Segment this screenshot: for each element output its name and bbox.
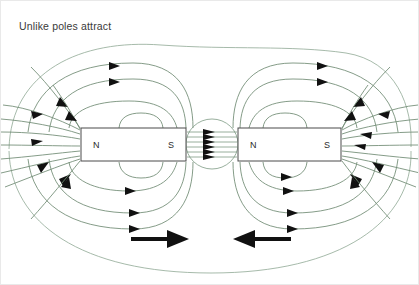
- right-magnet-south-label: S: [324, 140, 330, 150]
- gap-field-lines: [186, 119, 238, 169]
- right-magnet[interactable]: N S: [238, 128, 341, 161]
- left-magnet-south-label: S: [168, 140, 174, 150]
- field-line-outer-envelope: [9, 44, 411, 273]
- field-lines-right-fan: [342, 67, 419, 219]
- left-magnet[interactable]: N S: [81, 128, 186, 161]
- field-lines-left-top: [28, 62, 193, 132]
- field-diagram-svg: N S N S: [1, 1, 419, 285]
- left-force-arrow: [131, 230, 189, 248]
- right-magnet-north-label: N: [250, 140, 257, 150]
- field-lines-right-top: [233, 62, 398, 132]
- field-lines-left-bottom: [28, 159, 193, 233]
- diagram-canvas: Unlike poles attract: [0, 0, 419, 285]
- right-force-arrow: [233, 230, 291, 248]
- left-magnet-north-label: N: [93, 140, 100, 150]
